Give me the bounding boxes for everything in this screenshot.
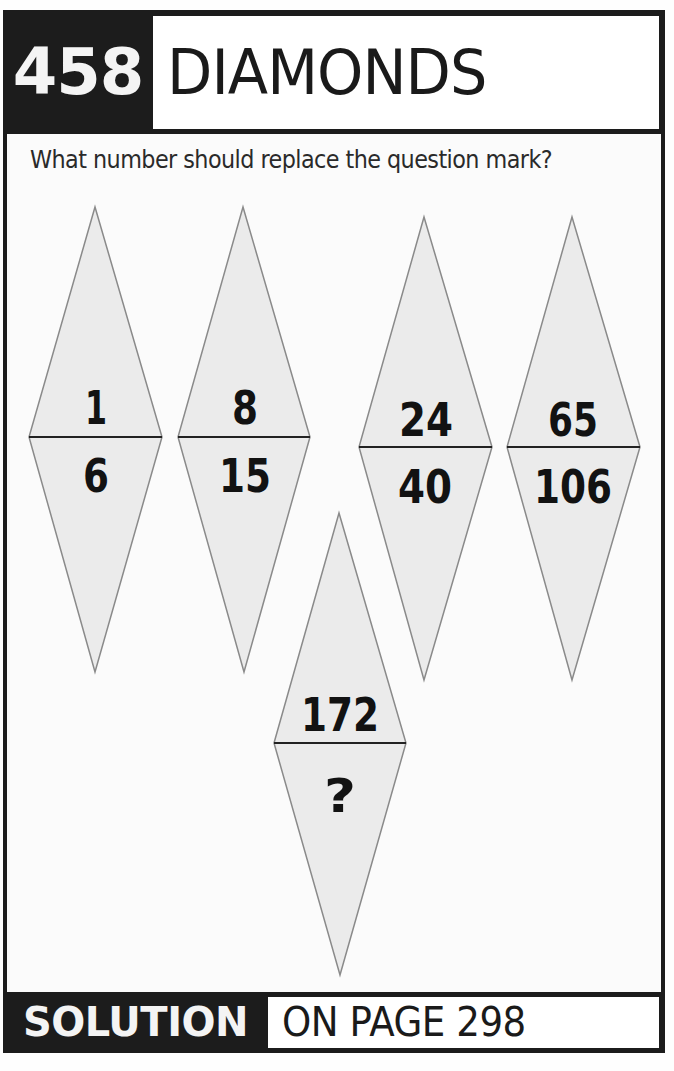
diamond-1: 1 6 — [29, 207, 162, 672]
diamond-5-top: 172 — [301, 688, 379, 742]
diamond-4: 65 106 — [507, 217, 640, 680]
diamond-5-bottom-question-mark: ? — [324, 769, 356, 823]
solution-page-text: ON PAGE 298 — [282, 997, 526, 1048]
diamond-3-top: 24 — [399, 393, 453, 447]
solution-page-box: ON PAGE 298 — [268, 997, 659, 1048]
diamond-5: 172 ? — [274, 513, 406, 975]
diamonds-diagram: 1 6 8 15 24 40 65 106 172 ? — [0, 0, 674, 1071]
diamond-2: 8 15 — [178, 207, 310, 672]
diamond-3-bottom: 40 — [398, 460, 452, 514]
diamond-3: 24 40 — [359, 217, 492, 680]
diamond-2-top: 8 — [232, 381, 258, 435]
solution-footer: SOLUTION ON PAGE 298 — [3, 992, 665, 1053]
diamond-4-bottom: 106 — [534, 460, 612, 514]
diamond-2-bottom: 15 — [219, 449, 271, 503]
diamond-1-top: 1 — [85, 381, 107, 435]
diamond-1-bottom: 6 — [83, 449, 109, 503]
diamond-4-top: 65 — [548, 393, 598, 447]
solution-label: SOLUTION — [3, 992, 268, 1053]
